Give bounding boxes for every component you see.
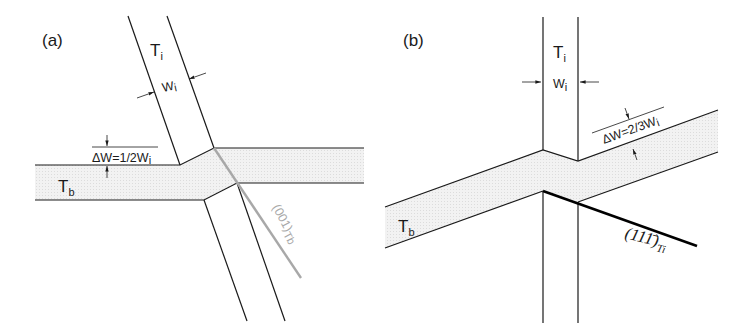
panel-label-b: (b) xyxy=(403,31,424,50)
panel-a: (a) Ti Wi Tb ΔW=1/2Wi (001)Tb xyxy=(35,16,364,321)
wi-arrow-right-a xyxy=(189,73,206,79)
wi-label-b: Wi xyxy=(553,77,567,93)
ti-label-b: Ti xyxy=(553,43,566,64)
twin-interaction-diagram: (a) Ti Wi Tb ΔW=1/2Wi (001)Tb (b) Ti Wi xyxy=(0,0,742,332)
dw-label-a: ΔW=1/2Wi xyxy=(92,151,151,166)
ti-label-a: Ti xyxy=(150,41,163,62)
ti-left-boundary-lower-a xyxy=(204,200,247,321)
wi-arrow-left-a xyxy=(137,92,154,98)
plane-001-label: (001)Tb xyxy=(268,202,302,247)
dw-arrow-top-b xyxy=(625,108,629,119)
panel-b: (b) Ti Wi Tb ΔW=2/3Wi (111̄)Ti xyxy=(385,17,718,323)
twin-band-tb-fill-b xyxy=(385,110,718,248)
panel-label-a: (a) xyxy=(42,31,63,50)
plane-11-1-line xyxy=(543,191,697,246)
plane-11-1-label: (111̄)Ti xyxy=(622,223,669,255)
wi-label-a: Wi xyxy=(161,78,178,96)
